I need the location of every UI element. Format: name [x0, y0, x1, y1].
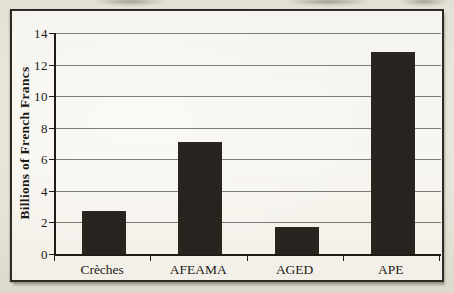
category-label-crches: Crèches [54, 262, 150, 278]
y-tick-label: 14 [18, 27, 48, 40]
scan-smudge [95, 0, 165, 6]
plot-area [54, 33, 441, 256]
y-tick-mark [49, 128, 54, 129]
scanned-page: { "chart_data": { "type": "bar", "title"… [0, 0, 454, 293]
y-tick-mark [49, 159, 54, 160]
bar-ape [371, 52, 415, 254]
y-tick-label: 8 [18, 121, 48, 134]
y-tick-mark [49, 65, 54, 66]
x-tick-mark [343, 256, 344, 261]
scan-smudge [288, 0, 368, 6]
gridline [56, 33, 441, 34]
y-tick-label: 4 [18, 184, 48, 197]
bar-aged [275, 227, 319, 254]
y-tick-mark [49, 96, 54, 97]
category-label-afeama: AFEAMA [150, 262, 246, 278]
y-tick-mark [49, 191, 54, 192]
y-tick-mark [49, 222, 54, 223]
bar-crches [82, 211, 126, 254]
y-tick-label: 6 [18, 153, 48, 166]
y-tick-mark [49, 33, 54, 34]
x-tick-mark [54, 256, 55, 261]
y-tick-label: 0 [18, 248, 48, 261]
x-tick-mark [150, 256, 151, 261]
x-tick-mark [439, 256, 440, 261]
bar-afeama [178, 142, 222, 254]
y-tick-label: 10 [18, 90, 48, 103]
category-label-aged: AGED [247, 262, 343, 278]
scan-smudge [400, 0, 448, 6]
y-tick-mark [49, 254, 54, 255]
x-tick-mark [247, 256, 248, 261]
figure-frame: Billions of French Francs 02468101214Crè… [10, 9, 444, 282]
y-tick-label: 12 [18, 58, 48, 71]
y-tick-label: 2 [18, 216, 48, 229]
category-label-ape: APE [343, 262, 439, 278]
